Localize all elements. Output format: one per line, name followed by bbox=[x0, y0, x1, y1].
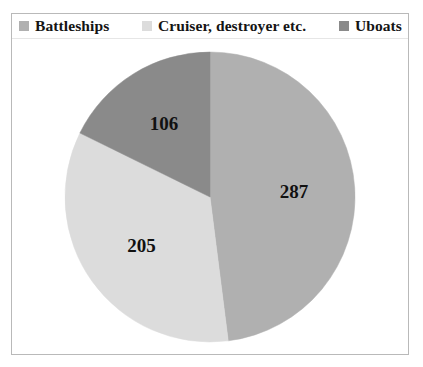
pie-slice-value-label: 205 bbox=[127, 235, 156, 256]
square-swatch-icon bbox=[142, 21, 152, 31]
pie-chart-svg: 287205106 bbox=[64, 51, 356, 343]
chart-frame: Battleships Cruiser, destroyer etc. Uboa… bbox=[11, 13, 409, 355]
legend-item-cruiser-destroyer[interactable]: Cruiser, destroyer etc. bbox=[142, 18, 306, 34]
square-swatch-icon bbox=[19, 21, 29, 31]
legend-item-uboats[interactable]: Uboats bbox=[339, 18, 402, 34]
legend-item-label: Battleships bbox=[35, 18, 109, 34]
legend-item-label: Cruiser, destroyer etc. bbox=[158, 18, 306, 34]
legend-item-label: Uboats bbox=[355, 18, 402, 34]
square-swatch-icon bbox=[339, 21, 349, 31]
pie-chart-area: 287205106 bbox=[12, 39, 408, 355]
pie-slice-value-label: 287 bbox=[280, 181, 309, 202]
chart-legend: Battleships Cruiser, destroyer etc. Uboa… bbox=[12, 14, 408, 39]
legend-item-battleships[interactable]: Battleships bbox=[19, 18, 109, 34]
pie-slice-group bbox=[65, 52, 355, 342]
pie-slice-value-label: 106 bbox=[150, 113, 179, 134]
